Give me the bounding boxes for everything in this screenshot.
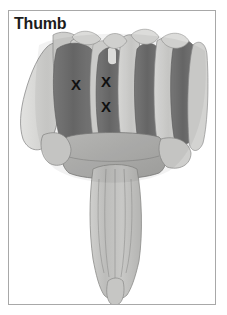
page-title: Thumb — [14, 16, 66, 32]
anatomy-figure: Thumb X X X — [0, 0, 227, 315]
shading-wash — [35, 34, 206, 183]
trigger-point-marker: X — [101, 99, 111, 114]
trigger-point-marker: X — [101, 74, 111, 89]
trigger-point-marker: X — [71, 77, 81, 92]
distal-tip — [107, 278, 124, 304]
anatomy-illustration — [9, 11, 215, 304]
hand-dorsum-group — [21, 29, 208, 304]
